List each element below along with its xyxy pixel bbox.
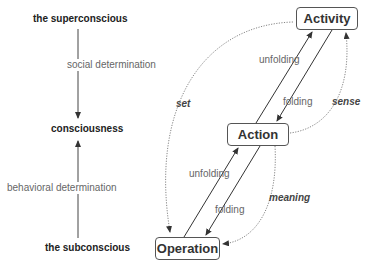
upper-unfolding-label: unfolding bbox=[259, 54, 300, 66]
set-label: set bbox=[176, 98, 190, 110]
action-node: Action bbox=[227, 123, 289, 146]
lower-unfolding-label: unfolding bbox=[189, 168, 230, 180]
behavioral-determination-label: behavioral determination bbox=[7, 182, 117, 194]
operation-node: Operation bbox=[155, 237, 220, 260]
lower-folding-arrow bbox=[206, 146, 260, 235]
social-determination-label: social determination bbox=[67, 59, 156, 71]
lower-folding-label: folding bbox=[215, 204, 244, 216]
sense-label: sense bbox=[332, 96, 360, 108]
superconscious-label: the superconscious bbox=[33, 13, 127, 25]
consciousness-label: consciousness bbox=[51, 123, 123, 135]
meaning-label: meaning bbox=[269, 192, 310, 204]
upper-folding-label: folding bbox=[283, 96, 312, 108]
activity-node: Activity bbox=[296, 7, 358, 30]
sense-arrow bbox=[290, 33, 347, 133]
lower-unfolding-arrow bbox=[184, 148, 238, 237]
subconscious-label: the subconscious bbox=[45, 242, 130, 254]
